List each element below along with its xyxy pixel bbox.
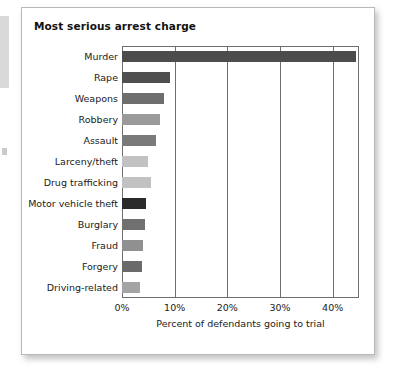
y-axis-label-drug-trafficking: Drug trafficking: [22, 177, 118, 188]
page-scan-artifact-mark: [2, 148, 7, 155]
bar-weapons: [122, 93, 164, 104]
x-axis-tick-30%: 30%: [269, 302, 290, 313]
bar-drug-trafficking: [122, 177, 151, 188]
bar-row: [122, 240, 359, 251]
bar-larceny-theft: [122, 156, 148, 167]
y-axis-label-motor-vehicle-theft: Motor vehicle theft: [22, 198, 118, 209]
y-axis-label-burglary: Burglary: [22, 219, 118, 230]
bar-driving-related: [122, 282, 140, 293]
y-axis-label-forgery: Forgery: [22, 261, 118, 272]
x-axis-tick-40%: 40%: [322, 302, 343, 313]
bar-row: [122, 93, 359, 104]
bar-row: [122, 219, 359, 230]
bar-fraud: [122, 240, 143, 251]
y-axis-label-murder: Murder: [22, 51, 118, 62]
y-axis-label-larceny-theft: Larceny/theft: [22, 156, 118, 167]
y-axis-label-assault: Assault: [22, 135, 118, 146]
y-axis-label-weapons: Weapons: [22, 93, 118, 104]
x-axis-tick-labels: 0%10%20%30%40%: [122, 302, 359, 316]
chart-plot-area: [122, 46, 359, 298]
figure-card: Most serious arrest charge MurderRapeWea…: [21, 7, 375, 355]
y-axis-label-fraud: Fraud: [22, 240, 118, 251]
bar-burglary: [122, 219, 145, 230]
x-axis-tick-10%: 10%: [164, 302, 185, 313]
bar-row: [122, 261, 359, 272]
x-axis-tick-20%: 20%: [217, 302, 238, 313]
bar-row: [122, 51, 359, 62]
bar-row: [122, 156, 359, 167]
y-axis-category-labels: MurderRapeWeaponsRobberyAssaultLarceny/t…: [22, 46, 118, 298]
bar-robbery: [122, 114, 160, 125]
bar-row: [122, 198, 359, 209]
bar-row: [122, 72, 359, 83]
bar-row: [122, 135, 359, 146]
bar-row: [122, 114, 359, 125]
bar-murder: [122, 51, 356, 62]
bar-forgery: [122, 261, 142, 272]
bar-row: [122, 282, 359, 293]
bar-row: [122, 177, 359, 188]
y-axis-label-robbery: Robbery: [22, 114, 118, 125]
bar-rows: [122, 46, 359, 298]
bar-assault: [122, 135, 156, 146]
bar-rape: [122, 72, 170, 83]
bar-motor-vehicle-theft: [122, 198, 146, 209]
x-axis-title: Percent of defendants going to trial: [122, 318, 359, 329]
x-axis-tick-0%: 0%: [114, 302, 129, 313]
figure-title: Most serious arrest charge: [34, 20, 196, 32]
page-scan-artifact-bar: [0, 16, 9, 88]
y-axis-label-rape: Rape: [22, 72, 118, 83]
y-axis-label-driving-related: Driving-related: [22, 282, 118, 293]
